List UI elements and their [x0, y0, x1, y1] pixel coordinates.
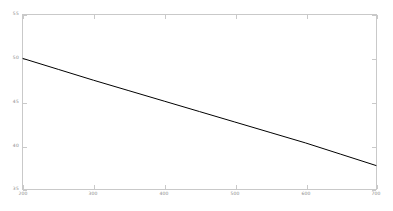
- ytick-mark: [23, 190, 27, 191]
- xtick-label: 500: [230, 192, 239, 197]
- ytick-label: 55: [13, 12, 19, 17]
- xtick-mark: [377, 185, 378, 189]
- data-series-line: [23, 15, 376, 189]
- xtick-label: 400: [159, 192, 168, 197]
- xtick-label: 700: [371, 192, 380, 197]
- xtick-label: 600: [301, 192, 310, 197]
- ytick-mark: [372, 190, 376, 191]
- ytick-label: 50: [13, 56, 19, 61]
- ytick-label: 40: [13, 144, 19, 149]
- plot-area: [22, 14, 377, 190]
- ytick-label: 45: [13, 100, 19, 105]
- series-polyline: [23, 59, 376, 166]
- xtick-mark: [377, 15, 378, 19]
- xtick-label: 200: [18, 192, 27, 197]
- chart-figure: 55 50 45 40 35 200 300 400 500 600 700: [0, 0, 393, 211]
- xtick-label: 300: [88, 192, 97, 197]
